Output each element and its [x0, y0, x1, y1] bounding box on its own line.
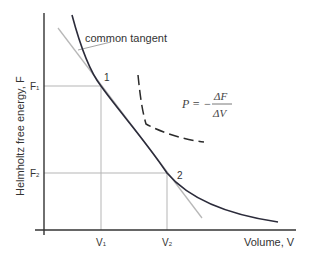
free-energy-diagram: common tangent 1 2 F1 F2 V1 V2 Volume, V… — [0, 0, 315, 260]
x-axis-title: Volume, V — [244, 236, 295, 248]
point-1-label: 1 — [104, 72, 110, 83]
diagram-canvas: common tangent 1 2 F1 F2 V1 V2 Volume, V… — [0, 0, 315, 260]
free-energy-curve — [72, 15, 278, 222]
formula-denominator: ΔV — [212, 107, 227, 119]
formula-lhs: P = − — [181, 97, 211, 111]
f2-tick-label: F2 — [30, 168, 40, 179]
point-2-label: 2 — [177, 170, 183, 181]
annotation-common-tangent: common tangent — [85, 32, 167, 44]
v1-tick-label: V1 — [96, 237, 107, 248]
f1-tick-label: F1 — [30, 81, 40, 92]
y-axis-title: Helmholtz free energy, F — [14, 76, 26, 196]
formula-numerator: ΔF — [213, 90, 227, 102]
v2-tick-label: V2 — [162, 237, 173, 248]
